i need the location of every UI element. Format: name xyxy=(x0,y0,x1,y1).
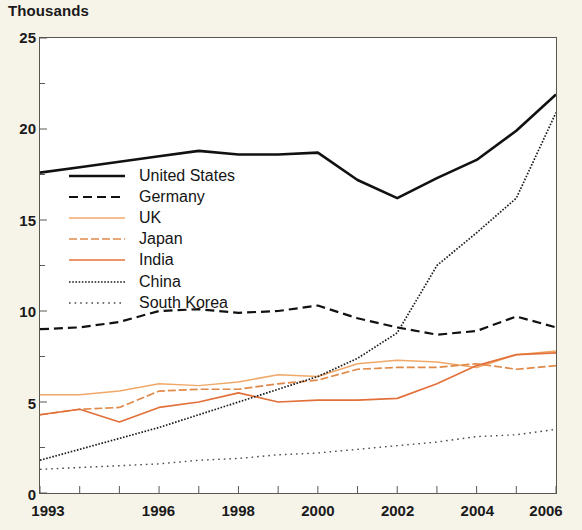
y-axis-tick-label: 25 xyxy=(2,29,36,46)
x-axis-tick-label: 2004 xyxy=(461,502,494,519)
y-axis-tick-label: 20 xyxy=(2,120,36,137)
x-axis-tick-label: 1998 xyxy=(222,502,255,519)
y-axis-tick-label: 5 xyxy=(2,394,36,411)
legend-line-swatch xyxy=(69,232,125,246)
legend-item: South Korea xyxy=(69,292,284,313)
legend-line-swatch xyxy=(69,211,125,225)
legend-line-swatch xyxy=(69,296,125,310)
chart-figure: Thousands 0510152025 United StatesGerman… xyxy=(0,0,582,530)
series-line xyxy=(40,364,556,415)
legend-line-swatch xyxy=(69,190,125,204)
legend-item: India xyxy=(69,250,284,271)
x-axis-tick-label: 2000 xyxy=(301,502,334,519)
y-axis-tick-label: 15 xyxy=(2,211,36,228)
legend-line-swatch xyxy=(69,253,125,267)
chart-legend: United StatesGermanyUKJapanIndiaChinaSou… xyxy=(69,165,284,313)
legend-item-label: Germany xyxy=(125,188,205,206)
legend-item-label: India xyxy=(125,251,174,269)
legend-line-swatch xyxy=(69,275,125,289)
legend-line-swatch xyxy=(69,169,125,183)
legend-item: Germany xyxy=(69,186,284,207)
series-line xyxy=(40,429,556,469)
legend-item-label: United States xyxy=(125,167,235,185)
x-axis-tick-label: 2006 xyxy=(529,502,562,519)
legend-item-label: Japan xyxy=(125,230,183,248)
legend-item: United States xyxy=(69,165,284,186)
legend-item-label: UK xyxy=(125,209,161,227)
y-axis-tick-label: 10 xyxy=(2,303,36,320)
x-axis-tick-label: 1996 xyxy=(142,502,175,519)
legend-item-label: South Korea xyxy=(125,294,228,312)
y-axis-tick-labels: 0510152025 xyxy=(0,0,36,530)
legend-item-label: China xyxy=(125,273,181,291)
legend-item: Japan xyxy=(69,229,284,250)
x-axis-tick-label: 1993 xyxy=(31,502,64,519)
x-axis-tick-label: 2002 xyxy=(381,502,414,519)
legend-item: UK xyxy=(69,207,284,228)
series-line xyxy=(40,351,556,395)
y-axis-tick-label: 0 xyxy=(2,486,36,503)
legend-item: China xyxy=(69,271,284,292)
